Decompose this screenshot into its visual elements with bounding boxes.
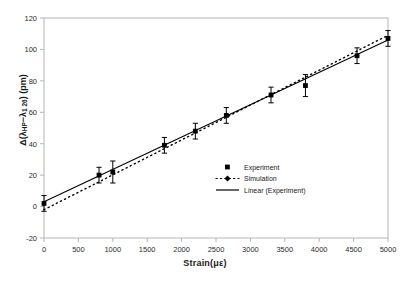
y-axis-title-delta: Δ( — [18, 136, 28, 145]
data-point-marker — [110, 170, 115, 175]
data-point-marker — [269, 93, 274, 98]
data-point-marker — [386, 36, 391, 41]
x-tick-label: 4500 — [345, 245, 362, 254]
y-axis-title-close: ) (pm) — [18, 74, 28, 99]
x-tick-label: 4000 — [311, 245, 328, 254]
y-axis-title-sub-1: HP — [21, 122, 28, 131]
x-tick-label: 1500 — [139, 245, 156, 254]
plot-frame — [44, 18, 388, 238]
x-axis-title-unit: με — [213, 258, 223, 268]
data-point-marker — [97, 173, 102, 178]
y-axis-title: Δ(λHP−λ1 26) (pm) — [18, 35, 28, 185]
y-tick-label: 80 — [29, 77, 37, 86]
x-tick-label: 2500 — [208, 245, 225, 254]
x-tick-label: 0 — [42, 245, 46, 254]
y-axis-title-sub-2: 1 26 — [21, 99, 28, 112]
x-axis-title: Strain(με) — [0, 258, 410, 268]
data-point-marker — [162, 143, 167, 148]
x-axis-title-close: ) — [223, 258, 226, 268]
x-tick-label: 5000 — [380, 245, 397, 254]
y-axis-title-lambda-1: λ — [18, 131, 28, 136]
y-tick-label: 20 — [29, 171, 37, 180]
data-point-marker — [193, 129, 198, 134]
x-tick-label: 1000 — [104, 245, 121, 254]
x-tick-label: 500 — [72, 245, 85, 254]
data-point-marker — [224, 113, 229, 118]
chart-figure: -20020406080100120 050010001500200025003… — [0, 0, 410, 283]
x-axis-ticks: 0500100015002000250030003500400045005000 — [42, 238, 396, 254]
x-tick-label: 3000 — [242, 245, 259, 254]
legend-item-label: Experiment — [244, 164, 279, 172]
legend-item-label: Linear (Experiment) — [244, 187, 305, 195]
data-point-marker — [42, 201, 47, 206]
x-tick-label: 2000 — [173, 245, 190, 254]
x-axis-title-main: Strain( — [183, 258, 213, 268]
chart-svg: -20020406080100120 050010001500200025003… — [0, 0, 410, 283]
y-tick-label: 0 — [33, 202, 37, 211]
y-axis-title-minus: − — [18, 117, 28, 122]
y-axis-title-lambda-2: λ — [18, 112, 28, 117]
y-tick-label: 40 — [29, 140, 37, 149]
data-point-marker — [355, 53, 360, 58]
y-tick-label: 60 — [29, 108, 37, 117]
legend-item-label: Simulation — [244, 175, 277, 182]
y-tick-label: -20 — [26, 234, 37, 243]
data-point-marker — [303, 83, 308, 88]
y-tick-label: 120 — [24, 14, 37, 23]
x-tick-label: 3500 — [276, 245, 293, 254]
